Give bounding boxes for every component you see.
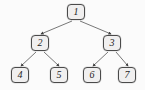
tree-edge [80,21,111,34]
tree-node-label: 6 [90,70,95,80]
tree-edge [93,52,108,66]
tree-node-label: 5 [57,70,62,80]
tree-edge [44,52,59,66]
tree-node-label: 1 [74,7,79,17]
tree-node-4[interactable]: 4 [11,67,29,83]
tree-edge [116,52,128,66]
tree-node-label: 7 [125,70,130,80]
tree-node-label: 4 [18,70,23,80]
tree-node-5[interactable]: 5 [50,67,68,83]
tree-diagram: 1234567 [0,0,145,90]
tree-edge [21,52,36,66]
tree-node-2[interactable]: 2 [31,35,49,51]
tree-node-6[interactable]: 6 [83,67,101,83]
tree-node-label: 3 [110,38,115,48]
tree-node-3[interactable]: 3 [103,35,121,51]
tree-edge [41,21,72,34]
tree-node-1[interactable]: 1 [67,4,85,20]
tree-node-label: 2 [38,38,43,48]
tree-node-7[interactable]: 7 [118,67,136,83]
